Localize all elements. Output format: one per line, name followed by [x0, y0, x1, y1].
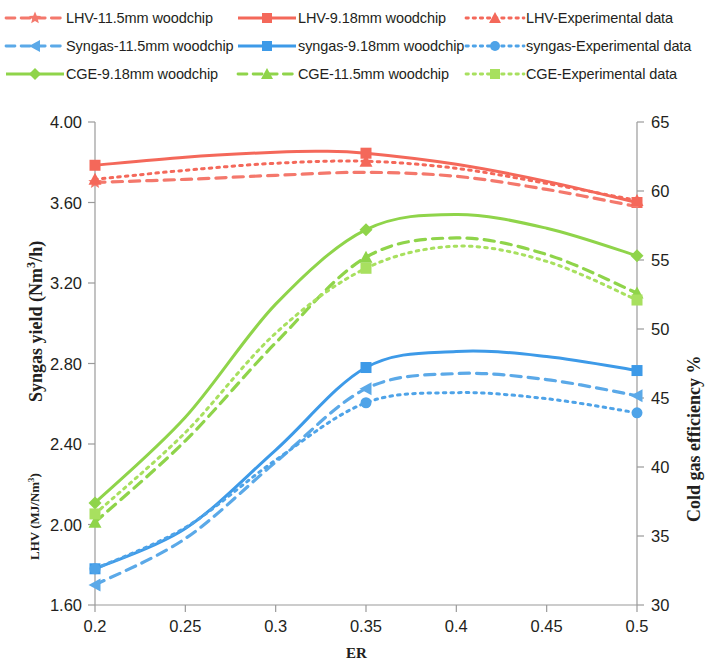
legend-row: Syngas-11.5mm woodchipsyngas-9.18mm wood… — [4, 32, 702, 60]
svg-text:0.4: 0.4 — [445, 617, 468, 635]
svg-text:2.00: 2.00 — [50, 516, 82, 534]
legend-label-cge_9_18: CGE-9.18mm woodchip — [66, 66, 218, 82]
legend-label-syngas_9_18: syngas-9.18mm woodchip — [298, 38, 464, 54]
y-axis-left-secondary-title: LHV (MJ/Nm3) — [26, 473, 43, 560]
series-cge_exp — [90, 246, 643, 519]
legend-label-lhv_exp: LHV-Experimental data — [526, 10, 673, 26]
svg-text:35: 35 — [651, 527, 669, 545]
legend-swatch-lhv_11_5 — [4, 8, 66, 28]
svg-text:30: 30 — [651, 596, 669, 614]
legend-item-cge_exp[interactable]: CGE-Experimental data — [464, 60, 702, 88]
y-axis-left-primary-title: Syngas yield (Nm3/h) — [24, 241, 47, 402]
y-axis-right-title: Cold gas efficiency % — [684, 356, 705, 522]
legend-item-lhv_9_18[interactable]: LHV-9.18mm woodchip — [236, 4, 464, 32]
legend-label-lhv_9_18: LHV-9.18mm woodchip — [298, 10, 446, 26]
series-lhv_11_5 — [88, 172, 637, 206]
legend-swatch-lhv_exp — [464, 8, 526, 28]
series-syngas_9_18 — [90, 351, 643, 574]
legend-swatch-lhv_9_18 — [236, 8, 298, 28]
svg-text:2.80: 2.80 — [50, 355, 82, 373]
legend-label-syngas_11_5: Syngas-11.5mm woodchip — [66, 38, 234, 54]
svg-text:50: 50 — [651, 320, 669, 338]
legend-swatch-syngas_exp — [464, 36, 526, 56]
svg-text:2.40: 2.40 — [50, 435, 82, 453]
legend-label-lhv_11_5: LHV-11.5mm woodchip — [66, 10, 213, 26]
svg-text:0.25: 0.25 — [169, 617, 201, 635]
legend-swatch-cge_11_5 — [236, 64, 298, 84]
legend-label-cge_exp: CGE-Experimental data — [526, 66, 677, 82]
svg-text:55: 55 — [651, 251, 669, 269]
plot-canvas: 1.602.002.402.803.203.604.00303540455055… — [0, 92, 702, 669]
svg-text:0.5: 0.5 — [626, 617, 649, 635]
svg-text:0.2: 0.2 — [84, 617, 107, 635]
legend-row: LHV-11.5mm woodchipLHV-9.18mm woodchipLH… — [4, 4, 702, 32]
legend-label-cge_11_5: CGE-11.5mm woodchip — [298, 66, 449, 82]
svg-text:0.3: 0.3 — [264, 617, 287, 635]
svg-text:45: 45 — [651, 389, 669, 407]
legend-swatch-syngas_9_18 — [236, 36, 298, 56]
legend-item-syngas_exp[interactable]: syngas-Experimental data — [464, 32, 702, 60]
legend-item-cge_11_5[interactable]: CGE-11.5mm woodchip — [236, 60, 464, 88]
legend-item-syngas_11_5[interactable]: Syngas-11.5mm woodchip — [4, 32, 236, 60]
legend-item-lhv_exp[interactable]: LHV-Experimental data — [464, 4, 702, 32]
svg-text:40: 40 — [651, 458, 669, 476]
svg-text:65: 65 — [651, 113, 669, 131]
chart-legend: LHV-11.5mm woodchipLHV-9.18mm woodchipLH… — [0, 0, 702, 92]
svg-text:3.60: 3.60 — [50, 194, 82, 212]
legend-swatch-cge_9_18 — [4, 64, 66, 84]
svg-text:1.60: 1.60 — [50, 596, 82, 614]
legend-item-lhv_11_5[interactable]: LHV-11.5mm woodchip — [4, 4, 236, 32]
svg-text:4.00: 4.00 — [50, 113, 82, 131]
plot-area: 1.602.002.402.803.203.604.00303540455055… — [0, 92, 702, 669]
svg-text:0.35: 0.35 — [350, 617, 382, 635]
legend-swatch-syngas_11_5 — [4, 36, 66, 56]
legend-item-syngas_9_18[interactable]: syngas-9.18mm woodchip — [236, 32, 464, 60]
legend-swatch-cge_exp — [464, 64, 526, 84]
legend-label-syngas_exp: syngas-Experimental data — [526, 38, 691, 54]
legend-item-cge_9_18[interactable]: CGE-9.18mm woodchip — [4, 60, 236, 88]
legend-row: CGE-9.18mm woodchipCGE-11.5mm woodchipCG… — [4, 60, 702, 88]
svg-text:0.45: 0.45 — [531, 617, 563, 635]
svg-text:60: 60 — [651, 182, 669, 200]
series-cge_11_5 — [89, 238, 644, 528]
x-axis-title: ER — [346, 645, 367, 662]
svg-text:3.20: 3.20 — [50, 274, 82, 292]
